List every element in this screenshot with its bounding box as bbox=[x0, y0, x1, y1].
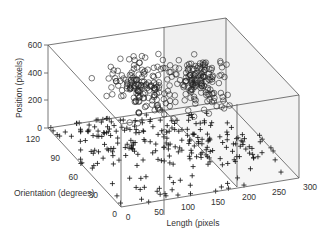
plus-marker bbox=[150, 124, 155, 129]
plus-marker bbox=[111, 161, 116, 166]
plus-marker bbox=[157, 186, 162, 191]
circle-marker bbox=[111, 68, 117, 74]
plus-marker bbox=[91, 133, 96, 138]
x-tick-150: 150 bbox=[211, 197, 225, 207]
circle-marker bbox=[144, 103, 150, 109]
plus-marker bbox=[96, 129, 101, 134]
plus-marker bbox=[141, 129, 146, 134]
plus-marker bbox=[171, 162, 176, 167]
z-axis: 600 400 200 0 Position (pixels) bbox=[14, 40, 48, 133]
plus-marker bbox=[108, 133, 113, 138]
circle-marker bbox=[109, 85, 115, 91]
z-tick-200: 200 bbox=[28, 95, 42, 105]
plus-marker bbox=[162, 191, 167, 196]
plus-marker bbox=[143, 174, 148, 179]
y-tick-0: 0 bbox=[112, 209, 117, 219]
plus-marker bbox=[101, 156, 106, 161]
plus-marker bbox=[87, 123, 92, 128]
x-axis-label: Length (pixels bbox=[167, 218, 220, 228]
circle-marker bbox=[126, 57, 132, 63]
plus-marker bbox=[158, 118, 163, 123]
plus-marker bbox=[187, 156, 192, 161]
plus-marker bbox=[127, 176, 132, 181]
plus-marker bbox=[194, 154, 199, 159]
plus-marker bbox=[189, 148, 194, 153]
z-tick-400: 400 bbox=[28, 68, 42, 78]
plus-marker bbox=[175, 193, 180, 198]
plus-marker bbox=[110, 181, 115, 186]
x-tick-0: 0 bbox=[126, 212, 131, 222]
back-panels bbox=[164, 18, 299, 187]
circle-marker bbox=[132, 57, 138, 63]
plus-marker bbox=[179, 138, 184, 143]
circle-marker bbox=[104, 93, 110, 99]
plus-marker bbox=[83, 138, 88, 143]
plus-marker bbox=[199, 155, 204, 160]
plus-marker bbox=[156, 132, 161, 137]
plus-marker bbox=[158, 192, 163, 197]
plus-marker bbox=[115, 136, 120, 141]
y-tick-90: 90 bbox=[51, 153, 61, 163]
plus-marker bbox=[219, 184, 224, 189]
z-tick-600: 600 bbox=[28, 40, 42, 50]
circle-marker bbox=[110, 92, 116, 98]
plus-marker bbox=[165, 123, 170, 128]
circle-marker bbox=[89, 75, 95, 81]
plus-marker bbox=[135, 152, 140, 157]
circle-marker bbox=[108, 64, 114, 70]
plus-marker bbox=[111, 146, 116, 151]
plus-marker bbox=[119, 125, 124, 130]
plus-marker bbox=[167, 160, 172, 165]
plus-marker bbox=[138, 176, 143, 181]
plus-marker bbox=[156, 157, 161, 162]
plus-marker bbox=[187, 154, 192, 159]
plus-marker bbox=[128, 138, 133, 143]
plus-marker bbox=[112, 123, 117, 128]
x-tick-200: 200 bbox=[242, 192, 256, 202]
circle-marker bbox=[142, 104, 148, 110]
plus-marker bbox=[78, 139, 83, 144]
scatter-3d-plot: 600 400 200 0 Position (pixels) 120 90 6… bbox=[0, 0, 331, 241]
plus-marker bbox=[123, 153, 128, 158]
circle-marker bbox=[118, 56, 124, 62]
plus-marker bbox=[85, 129, 90, 134]
plus-marker bbox=[167, 154, 172, 159]
plus-marker bbox=[141, 157, 146, 162]
plus-marker bbox=[142, 185, 147, 190]
plus-marker bbox=[167, 129, 172, 134]
circle-marker bbox=[119, 73, 125, 79]
circle-marker bbox=[156, 51, 162, 57]
circle-marker bbox=[142, 55, 148, 61]
plus-marker bbox=[166, 146, 171, 151]
circle-marker bbox=[151, 65, 157, 71]
plus-marker bbox=[167, 175, 172, 180]
plus-marker bbox=[178, 178, 183, 183]
plus-marker bbox=[177, 145, 182, 150]
plus-marker bbox=[171, 180, 176, 185]
plus-marker bbox=[95, 161, 100, 166]
y-tick-60: 60 bbox=[69, 172, 79, 182]
plus-marker bbox=[115, 141, 120, 146]
plus-marker bbox=[92, 124, 97, 129]
plus-marker bbox=[148, 139, 153, 144]
plus-marker bbox=[139, 197, 144, 202]
circle-marker bbox=[106, 76, 112, 82]
plus-marker bbox=[159, 158, 164, 163]
plus-marker bbox=[155, 189, 160, 194]
plus-marker bbox=[186, 141, 191, 146]
x-tick-100: 100 bbox=[181, 202, 195, 212]
plus-marker bbox=[170, 187, 175, 192]
plus-marker bbox=[114, 129, 119, 134]
plus-marker bbox=[63, 129, 68, 134]
x-tick-300: 300 bbox=[303, 182, 317, 192]
x-tick-250: 250 bbox=[272, 187, 286, 197]
plus-marker bbox=[78, 129, 83, 134]
z-tick-0: 0 bbox=[37, 123, 42, 133]
plus-marker bbox=[121, 118, 126, 123]
plus-marker bbox=[153, 142, 158, 147]
plus-marker bbox=[78, 147, 83, 152]
plus-marker bbox=[135, 163, 140, 168]
plus-marker bbox=[164, 136, 169, 141]
plus-marker bbox=[114, 193, 119, 198]
y-tick-120: 120 bbox=[26, 134, 40, 144]
